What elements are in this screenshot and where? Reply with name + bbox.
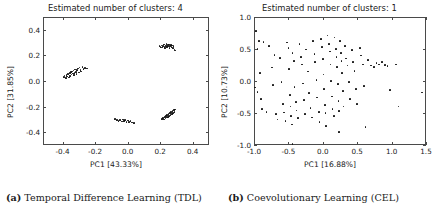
panel-b-data-point bbox=[351, 49, 353, 51]
panel-b-data-point bbox=[310, 107, 312, 109]
panel-a-x-tick-top bbox=[95, 17, 96, 20]
panel-b-data-point bbox=[330, 80, 332, 82]
panel-a-y-tick-label: -0.4 bbox=[21, 128, 40, 137]
panel-b-data-point bbox=[319, 121, 321, 123]
panel-b-x-tick-top bbox=[357, 17, 358, 20]
panel-b-data-point bbox=[321, 46, 323, 48]
panel-a-y-tick-label: -0.2 bbox=[21, 103, 40, 112]
panel-b-data-point bbox=[268, 45, 270, 47]
panel-b-data-point bbox=[342, 90, 344, 92]
panel-b-y-tick bbox=[254, 113, 257, 114]
panel-b-x-tick bbox=[323, 142, 324, 145]
caption-panel-b: (b) Coevolutionary Learning (CEL) bbox=[228, 192, 399, 203]
caption-panel-a: (a) Temporal Difference Learning (TDL) bbox=[6, 192, 202, 203]
panel-a-x-tick-label: -0.4 bbox=[55, 147, 71, 156]
panel-b-data-point bbox=[324, 104, 326, 106]
panel-b-data-point bbox=[389, 89, 391, 91]
panel-b-data-point bbox=[367, 59, 369, 61]
panel-a-y-tick-label: 0.2 bbox=[21, 51, 40, 60]
panel-b-data-point bbox=[254, 87, 256, 89]
figure-two-panel-pca: Estimated number of clusters: 4 PC2 [31.… bbox=[0, 0, 441, 206]
panel-b-y-tick bbox=[254, 81, 257, 82]
caption-a-text: Temporal Difference Learning (TDL) bbox=[24, 192, 201, 203]
panel-a-x-tick-top bbox=[63, 17, 64, 20]
panel-b-data-point bbox=[348, 81, 350, 83]
panel-b-data-point bbox=[318, 111, 320, 113]
panel-b-y-tick-right bbox=[423, 113, 426, 114]
panel-a-x-tick-top bbox=[128, 17, 129, 20]
panel-b-data-point bbox=[339, 40, 341, 42]
panel-a-y-tick-right bbox=[206, 107, 209, 108]
panel-b-data-point bbox=[288, 47, 290, 49]
panel-b-y-tick-label: 0.5 bbox=[232, 45, 251, 54]
panel-a-x-tick-top bbox=[160, 17, 161, 20]
panel-a-y-tick-label: 0.4 bbox=[21, 26, 40, 35]
panel-b-data-point bbox=[333, 115, 335, 117]
panel-b-data-point bbox=[341, 60, 343, 62]
panel-b-data-point bbox=[322, 58, 324, 60]
panel-a-title: Estimated number of clusters: 4 bbox=[48, 3, 183, 13]
panel-b-data-point bbox=[312, 40, 314, 42]
panel-b-y-tick-right bbox=[423, 17, 426, 18]
panel-a-y-tick bbox=[43, 107, 46, 108]
panel-b-data-point bbox=[282, 103, 284, 105]
panel-b-data-point bbox=[356, 103, 358, 105]
panel-b-data-point bbox=[344, 45, 346, 47]
panel-b-data-point bbox=[328, 43, 330, 45]
panel-b-data-point bbox=[255, 30, 257, 32]
panel-b-x-tick bbox=[426, 142, 427, 145]
panel-a-data-point bbox=[133, 122, 135, 124]
panel-b-y-tick-label: -1.0 bbox=[232, 141, 251, 150]
panel-b-x-tick-label: 1.5 bbox=[418, 147, 434, 156]
panel-b-data-point bbox=[260, 98, 262, 100]
panel-b-y-tick-right bbox=[423, 145, 426, 146]
panel-a-y-tick-right bbox=[206, 55, 209, 56]
panel-a-data-point bbox=[65, 77, 67, 79]
panel-b-data-point bbox=[308, 92, 310, 94]
panel-b-data-point bbox=[325, 125, 327, 127]
panel-b-data-point bbox=[288, 68, 290, 70]
panel-b-data-point bbox=[293, 60, 295, 62]
panel-b-data-point bbox=[336, 66, 338, 68]
panel-b-y-tick bbox=[254, 145, 257, 146]
panel-b-y-tick bbox=[254, 17, 257, 18]
panel-b-data-point bbox=[384, 64, 386, 66]
panel-a-data-point bbox=[73, 74, 75, 76]
panel-b-data-point bbox=[299, 43, 301, 45]
panel-b-data-point bbox=[266, 111, 268, 113]
panel-a-y-tick-right bbox=[206, 132, 209, 133]
caption-a-label: (a) bbox=[6, 192, 21, 203]
panel-b-x-tick bbox=[288, 142, 289, 145]
panel-b-data-point bbox=[279, 57, 281, 59]
panel-a-data-point bbox=[69, 75, 71, 77]
panel-b-data-point bbox=[395, 64, 397, 66]
panel-b-data-point bbox=[272, 84, 274, 86]
panel-b-data-point bbox=[304, 113, 306, 115]
panel-a-y-axis-label: PC2 [31.85%] bbox=[6, 66, 15, 118]
panel-b-data-point bbox=[352, 61, 354, 63]
panel-a-x-tick-label: 0.2 bbox=[152, 147, 168, 156]
panel-b-x-tick-label: 0.5 bbox=[349, 147, 365, 156]
panel-b-x-tick-label: 1.0 bbox=[384, 147, 400, 156]
panel-b-data-point bbox=[381, 61, 383, 63]
panel-a-y-tick bbox=[43, 30, 46, 31]
panel-b-data-point bbox=[373, 66, 375, 68]
panel-b-data-point bbox=[300, 56, 302, 58]
caption-b-label: (b) bbox=[228, 192, 244, 203]
panel-a-plot-area[interactable] bbox=[43, 17, 209, 145]
panel-a-x-tick bbox=[63, 142, 64, 145]
panel-a-y-tick bbox=[43, 81, 46, 82]
panel-a-x-tick-label: -0.2 bbox=[87, 147, 103, 156]
panel-b-y-tick-label: -0.5 bbox=[232, 109, 251, 118]
panel-b-data-point bbox=[289, 94, 291, 96]
panel-b-data-point bbox=[314, 61, 316, 63]
panel-b-data-point bbox=[295, 101, 297, 103]
panel-b-data-point bbox=[290, 115, 292, 117]
panel-b-data-point bbox=[275, 113, 277, 115]
panel-b-plot-area[interactable] bbox=[254, 17, 426, 145]
panel-a-x-tick bbox=[95, 142, 96, 145]
panel-b-data-point bbox=[340, 52, 342, 54]
caption-b-text: Coevolutionary Learning (CEL) bbox=[247, 192, 399, 203]
panel-b-data-point bbox=[335, 48, 337, 50]
panel-b-x-tick bbox=[357, 142, 358, 145]
